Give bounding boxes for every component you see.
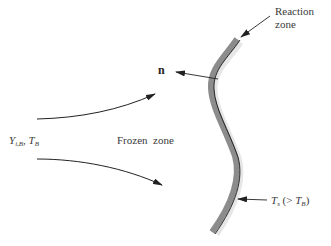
surface-condition-open: (> [280, 194, 295, 206]
upper-flow-arrow [37, 94, 155, 119]
inflow-state-label: Yi,B, TB [9, 134, 39, 151]
frozen-zone-label: Frozen zone [117, 134, 174, 147]
surface-condition-close: ) [306, 194, 310, 206]
reaction-zone-label-line1: Reaction [275, 5, 314, 18]
surface-temperature-pointer-arrow [238, 199, 267, 200]
reaction-zone-label-line2: zone [275, 18, 314, 31]
normal-vector-label: n [158, 64, 165, 77]
reaction-zone-label: Reaction zone [275, 5, 314, 31]
inflow-temperature-subscript: B [35, 140, 39, 148]
lower-flow-arrow [37, 159, 162, 185]
surface-temperature-label: Ts (> TB) [271, 194, 309, 211]
reaction-zone-pointer-arrow [241, 16, 270, 37]
inflow-mass-fraction-subscript: i,B [15, 140, 23, 148]
